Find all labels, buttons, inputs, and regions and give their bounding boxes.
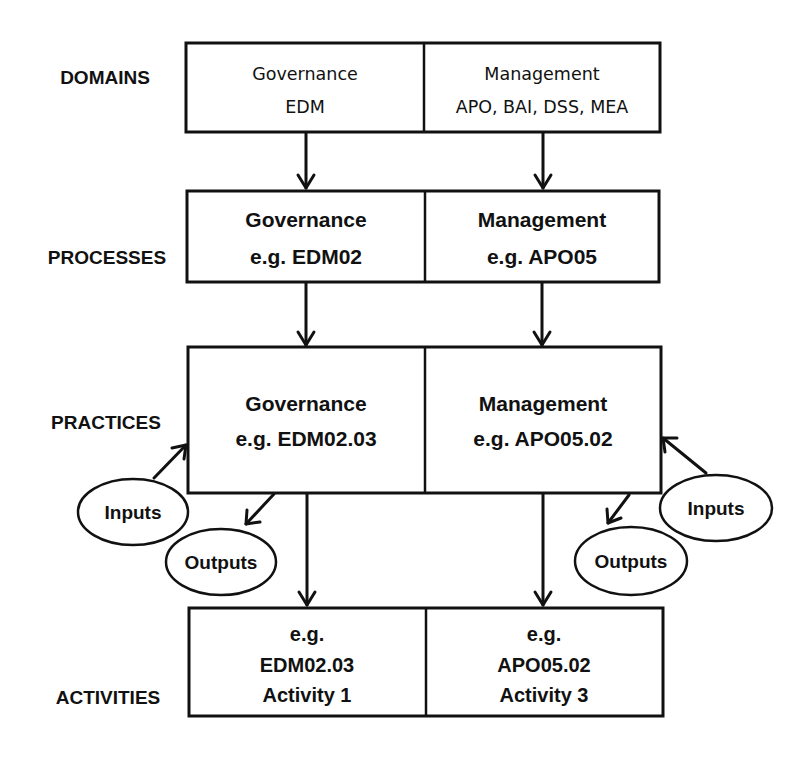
arrow-down-icon: [298, 283, 314, 345]
right-inputs-node: Inputs: [660, 475, 772, 541]
practice-management-example: e.g. APO05.02: [473, 427, 612, 450]
left-inputs-node: Inputs: [78, 479, 188, 545]
arrow-down-icon: [298, 133, 314, 188]
processes-box-frame: [187, 191, 659, 282]
arrow-down-icon: [534, 283, 550, 345]
practices-box: Governance e.g. EDM02.03 Management e.g.…: [188, 347, 661, 493]
activities-box: e.g. EDM02.03 Activity 1 e.g. APO05.02 A…: [189, 608, 663, 716]
practice-governance-title: Governance: [245, 392, 366, 415]
arrow-down-icon: [535, 133, 551, 188]
right-inputs-label: Inputs: [688, 498, 745, 519]
arrow-inputs-icon: [663, 438, 706, 473]
arrow-outputs-icon: [607, 495, 629, 523]
domain-governance-code: EDM: [285, 97, 325, 117]
practice-management-title: Management: [479, 392, 607, 415]
activity-governance-activity: Activity 1: [263, 684, 352, 706]
activity-governance-prefix: e.g.: [290, 623, 324, 645]
right-outputs-label: Outputs: [595, 551, 668, 572]
domain-governance-title: Governance: [252, 64, 358, 84]
domain-management-codes: APO, BAI, DSS, MEA: [456, 97, 629, 117]
process-governance-example: e.g. EDM02: [250, 245, 362, 268]
activity-management-prefix: e.g.: [527, 623, 561, 645]
row-label-processes: PROCESSES: [48, 247, 166, 268]
domains-box: Governance EDM Management APO, BAI, DSS,…: [186, 43, 660, 132]
domain-management-title: Management: [484, 64, 599, 84]
activity-governance-practice: EDM02.03: [260, 654, 355, 676]
practice-governance-example: e.g. EDM02.03: [235, 427, 376, 450]
arrow-down-icon: [535, 494, 551, 605]
cobit-hierarchy-diagram: DOMAINS PROCESSES PRACTICES ACTIVITIES G…: [0, 0, 812, 761]
left-inputs-label: Inputs: [105, 502, 162, 523]
left-outputs-label: Outputs: [185, 552, 258, 573]
arrow-inputs-icon: [154, 445, 186, 478]
arrow-down-icon: [299, 494, 315, 605]
left-outputs-node: Outputs: [166, 529, 276, 595]
row-label-domains: DOMAINS: [60, 67, 150, 88]
activity-management-practice: APO05.02: [497, 654, 590, 676]
process-management-example: e.g. APO05: [487, 245, 597, 268]
activity-management-activity: Activity 3: [500, 684, 589, 706]
row-label-practices: PRACTICES: [51, 412, 161, 433]
processes-box: Governance e.g. EDM02 Management e.g. AP…: [187, 191, 659, 282]
row-label-activities: ACTIVITIES: [56, 687, 161, 708]
process-governance-title: Governance: [245, 208, 366, 231]
arrow-outputs-icon: [246, 494, 274, 524]
process-management-title: Management: [478, 208, 606, 231]
right-outputs-node: Outputs: [575, 527, 687, 595]
